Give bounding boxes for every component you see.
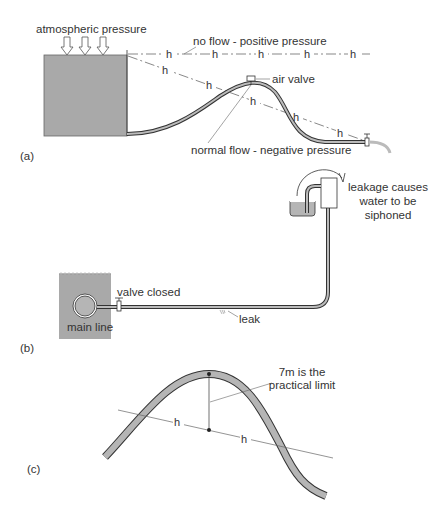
outlet-valve-icon	[364, 134, 370, 146]
tap-box	[321, 178, 337, 208]
siphon-label-line2: water to be	[359, 195, 417, 207]
head-marker: h	[206, 79, 212, 91]
limit-label-line1: 7m is the	[279, 366, 326, 378]
part-c: h h 7m is the practical limit (c)	[27, 366, 336, 496]
no-flow-label: no flow - positive pressure	[193, 35, 327, 47]
part-a-label: (a)	[20, 150, 34, 162]
pressure-arrows-icon	[61, 37, 109, 55]
head-marker: h	[258, 48, 264, 60]
head-marker: h	[241, 433, 247, 445]
head-marker: h	[250, 95, 256, 107]
head-marker: h	[350, 48, 356, 60]
normal-flow-label: normal flow - negative pressure	[191, 144, 351, 156]
siphon-label-line1: leakage causes	[348, 181, 428, 193]
part-a: atmospheric pressure h h h h h no flow -…	[20, 23, 390, 162]
part-c-label: (c)	[27, 463, 41, 475]
part-b-label: (b)	[20, 342, 34, 354]
head-marker: h	[212, 48, 218, 60]
head-marker: h	[174, 416, 180, 428]
pipe-crown	[105, 374, 326, 496]
head-marker: h	[162, 64, 168, 76]
siphon-label-line3: siphoned	[365, 209, 412, 221]
leak-label: leak	[239, 313, 260, 325]
outlet-spout	[369, 142, 390, 153]
main-line-label: main line	[67, 321, 113, 333]
reservoir-tank	[44, 55, 127, 136]
valve-closed-label: valve closed	[117, 286, 180, 298]
hydraulic-gradient-line	[118, 410, 333, 458]
siphon-diagram: atmospheric pressure h h h h h no flow -…	[0, 0, 437, 518]
head-marker: h	[166, 48, 172, 60]
part-b: main line valve closed leak leakage c	[20, 170, 428, 354]
limit-label-line2: practical limit	[269, 379, 336, 391]
closed-valve-icon	[115, 298, 123, 311]
head-marker: h	[304, 48, 310, 60]
air-valve-label: air valve	[272, 73, 315, 85]
atmospheric-pressure-label: atmospheric pressure	[36, 23, 147, 35]
leak-icon	[220, 310, 225, 314]
head-marker: h	[337, 127, 343, 139]
container-icon	[290, 201, 315, 216]
